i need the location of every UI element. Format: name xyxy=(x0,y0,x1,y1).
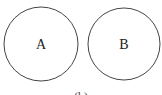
circle-b-label: B xyxy=(119,37,128,52)
venn-diagram: A B (b) xyxy=(0,0,162,95)
circle-a-label: A xyxy=(36,37,47,52)
figure-caption: (b) xyxy=(74,90,88,95)
